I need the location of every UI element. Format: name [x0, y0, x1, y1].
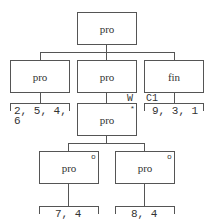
level3-connector: [106, 135, 107, 143]
level2-bus: [40, 52, 175, 53]
level3-node-star-mark: *: [130, 105, 135, 113]
level2-node-left: pro: [10, 60, 70, 93]
level4-node-right: pro: [115, 151, 175, 184]
level4-node-left-circle-mark: o: [91, 153, 96, 161]
level2-node-right: fin: [144, 60, 204, 93]
level4-node-right-label: pro: [138, 162, 153, 174]
bus-drop-middle: [106, 52, 107, 60]
middle-child-connector: [106, 92, 107, 103]
level2-node-middle: pro: [77, 60, 137, 93]
level4-bus: [68, 143, 145, 144]
level2-node-middle-label: pro: [100, 71, 115, 83]
left-list-line-2: 6: [14, 116, 21, 127]
root-node-label: pro: [100, 23, 115, 35]
level4-node-left: pro: [39, 151, 99, 184]
level4-right-list-connector: [144, 183, 145, 206]
bus-drop-left: [40, 52, 41, 60]
level3-node: pro: [77, 103, 137, 136]
root-connector: [106, 44, 107, 52]
right-list-connector: [174, 92, 175, 103]
level4-drop-left: [68, 143, 69, 151]
level4-node-left-label: pro: [62, 162, 77, 174]
left-list-connector: [40, 92, 41, 103]
root-node: pro: [77, 12, 137, 45]
bus-drop-right: [174, 52, 175, 60]
level3-node-label: pro: [100, 114, 115, 126]
level4-left-list-connector: [68, 183, 69, 206]
level4-left-list-text: 7, 4: [55, 209, 81, 220]
level2-node-right-label: fin: [168, 71, 180, 83]
right-list-line-1: 9, 3, 1: [152, 106, 198, 117]
level4-node-right-circle-mark: o: [167, 153, 172, 161]
level4-right-list-text: 8, 4: [131, 209, 157, 220]
level4-drop-right: [144, 143, 145, 151]
level2-node-left-label: pro: [33, 71, 48, 83]
left-list-line-1: 2, 5, 4,: [14, 106, 67, 117]
